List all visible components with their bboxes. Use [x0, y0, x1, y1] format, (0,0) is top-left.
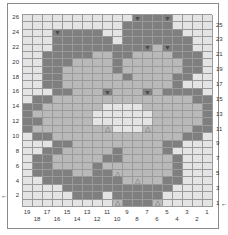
stitch-cell-r17-c10 [113, 81, 123, 88]
stitch-cell-r3-c16 [53, 185, 63, 192]
stitch-cell-r11-c11: △ [103, 126, 113, 133]
stitch-cell-r18-c11 [103, 74, 113, 81]
stitch-cell-r9-c6 [153, 141, 163, 148]
stitch-cell-r20-c11 [103, 59, 113, 66]
stitch-cell-r10-c8 [133, 133, 143, 140]
stitch-cell-r11-c18 [33, 126, 43, 133]
stitch-cell-r24-c2 [193, 30, 203, 37]
stitch-cell-r12-c9 [123, 118, 133, 125]
stitch-cell-r23-c1 [203, 37, 213, 44]
stitch-cell-r6-c16 [53, 163, 63, 170]
col-label-6: 6 [152, 216, 162, 223]
stitch-cell-r22-c2 [193, 45, 203, 52]
stitch-cell-r26-c2 [193, 15, 203, 22]
down-triangle-icon: ▼ [143, 45, 152, 51]
stitch-cell-r11-c17 [43, 126, 53, 133]
stitch-cell-r4-c8: △ [133, 177, 143, 184]
stitch-cell-r12-c3 [183, 118, 193, 125]
row-label-10: 10 [5, 133, 19, 140]
stitch-cell-r26-c17 [43, 15, 53, 22]
stitch-cell-r25-c19 [23, 22, 33, 29]
stitch-cell-r7-c10 [113, 155, 123, 162]
col-label-2: 2 [192, 216, 202, 223]
stitch-cell-r20-c2 [193, 59, 203, 66]
stitch-cell-r3-c11 [103, 185, 113, 192]
stitch-cell-r14-c5 [163, 104, 173, 111]
stitch-cell-r24-c7 [143, 30, 153, 37]
stitch-cell-r3-c19 [23, 185, 33, 192]
stitch-cell-r9-c10 [113, 141, 123, 148]
stitch-cell-r16-c10 [113, 89, 123, 96]
stitch-cell-r3-c13 [83, 185, 93, 192]
stitch-cell-r23-c12 [93, 37, 103, 44]
stitch-cell-r16-c4 [173, 89, 183, 96]
stitch-cell-r14-c9 [123, 104, 133, 111]
stitch-cell-r8-c12 [93, 148, 103, 155]
stitch-cell-r22-c7: ▼ [143, 45, 153, 52]
stitch-cell-r24-c15 [63, 30, 73, 37]
stitch-cell-r14-c13 [83, 104, 93, 111]
stitch-cell-r23-c10 [113, 37, 123, 44]
stitch-cell-r25-c7 [143, 22, 153, 29]
stitch-cell-r1-c13 [83, 200, 93, 207]
stitch-cell-r13-c12 [93, 111, 103, 118]
stitch-cell-r17-c12 [93, 81, 103, 88]
stitch-cell-r19-c8 [133, 67, 143, 74]
row-label-6: 6 [5, 163, 19, 170]
stitch-cell-r25-c18 [33, 22, 43, 29]
stitch-cell-r13-c3 [183, 111, 193, 118]
stitch-cell-r22-c6 [153, 45, 163, 52]
stitch-cell-r4-c19 [23, 177, 33, 184]
stitch-cell-r26-c12 [93, 15, 103, 22]
stitch-cell-r13-c19 [23, 111, 33, 118]
stitch-cell-r19-c11 [103, 67, 113, 74]
stitch-cell-r24-c8 [133, 30, 143, 37]
stitch-cell-r3-c8 [133, 185, 143, 192]
stitch-cell-r1-c7 [143, 200, 153, 207]
stitch-cell-r15-c16 [53, 96, 63, 103]
stitch-cell-r3-c17 [43, 185, 53, 192]
stitch-cell-r21-c9 [123, 52, 133, 59]
stitch-cell-r2-c18 [33, 192, 43, 199]
stitch-cell-r20-c4 [173, 59, 183, 66]
stitch-cell-r24-c11 [103, 30, 113, 37]
stitch-cell-r4-c9 [123, 177, 133, 184]
stitch-cell-r5-c1 [203, 170, 213, 177]
stitch-cell-r5-c6 [153, 170, 163, 177]
stitch-cell-r18-c2 [193, 74, 203, 81]
stitch-cell-r15-c3 [183, 96, 193, 103]
stitch-cell-r15-c4 [173, 96, 183, 103]
stitch-cell-r19-c7 [143, 67, 153, 74]
stitch-cell-r23-c6 [153, 37, 163, 44]
stitch-cell-r25-c8 [133, 22, 143, 29]
stitch-cell-r14-c19 [23, 104, 33, 111]
stitch-cell-r11-c16 [53, 126, 63, 133]
stitch-cell-r5-c5 [163, 170, 173, 177]
stitch-cell-r25-c5 [163, 22, 173, 29]
stitch-cell-r26-c8: ▼ [133, 15, 143, 22]
col-label-11: 11 [102, 209, 112, 216]
stitch-cell-r15-c18 [33, 96, 43, 103]
stitch-cell-r12-c15 [63, 118, 73, 125]
row-label-21: 21 [216, 51, 228, 58]
stitch-cell-r9-c14 [73, 141, 83, 148]
stitch-cell-r23-c8 [133, 37, 143, 44]
stitch-cell-r23-c3 [183, 37, 193, 44]
stitch-cell-r6-c12 [93, 163, 103, 170]
stitch-cell-r15-c10 [113, 96, 123, 103]
stitch-cell-r4-c7 [143, 177, 153, 184]
stitch-cell-r25-c11 [103, 22, 113, 29]
stitch-cell-r19-c4 [173, 67, 183, 74]
stitch-cell-r18-c13 [83, 74, 93, 81]
stitch-cell-r23-c18 [33, 37, 43, 44]
stitch-cell-r18-c16 [53, 74, 63, 81]
stitch-cell-r17-c16 [53, 81, 63, 88]
stitch-cell-r1-c4 [173, 200, 183, 207]
stitch-cell-r10-c1 [203, 133, 213, 140]
stitch-cell-r4-c3 [183, 177, 193, 184]
stitch-cell-r18-c14 [73, 74, 83, 81]
stitch-cell-r5-c11 [103, 170, 113, 177]
stitch-cell-r1-c8 [133, 200, 143, 207]
stitch-cell-r8-c13 [83, 148, 93, 155]
stitch-cell-r13-c4 [173, 111, 183, 118]
